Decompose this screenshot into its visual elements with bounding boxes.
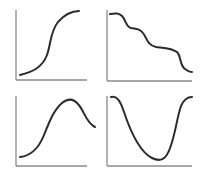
stepped-decline-curve (110, 13, 192, 72)
valley-curve (111, 97, 192, 160)
panel-bottom-right (107, 96, 192, 166)
panel-bottom-left (16, 96, 95, 166)
panel-top-right (107, 10, 192, 81)
sigmoid-curve (20, 11, 79, 75)
panel-top-left (16, 10, 87, 80)
figure (0, 0, 203, 173)
hump-curve (20, 100, 95, 157)
curve-grid (0, 0, 203, 173)
